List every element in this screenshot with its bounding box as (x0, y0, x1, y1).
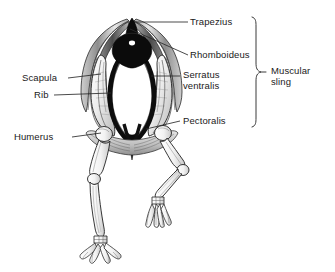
label-scapula: Scapula (22, 72, 57, 83)
label-rhomboideus: Rhomboideus (190, 49, 250, 60)
label-trapezius: Trapezius (190, 16, 232, 27)
label-pectoralis: Pectoralis (183, 115, 226, 126)
label-muscular-sling-line1: Muscular (271, 66, 310, 77)
label-muscular-sling-line2: sling (271, 77, 291, 88)
figure-canvas: Trapezius Rhomboideus Serratus ventralis… (0, 0, 335, 272)
label-rib: Rib (34, 89, 49, 100)
muscular-sling-bracket (252, 17, 266, 127)
label-serratus-ventralis-line1: Serratus (183, 70, 220, 81)
label-serratus-ventralis-line2: ventralis (183, 81, 219, 92)
skeleton-illustration (80, 18, 189, 263)
label-humerus: Humerus (14, 131, 53, 142)
